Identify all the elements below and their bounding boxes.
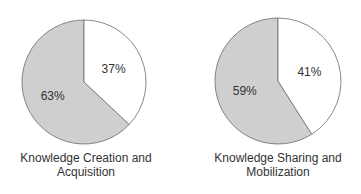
caption-line-2: Mobilization [193,165,361,179]
pie-chart-knowledge-sharing: 59%41% [215,18,341,144]
caption-knowledge-creation: Knowledge Creation and Acquisition [1,151,171,179]
pie-label-shaded: 59% [233,84,257,98]
caption-line-1: Knowledge Creation and [1,151,171,165]
pie-label-unshaded: 41% [297,65,321,79]
pie-label-shaded: 63% [41,89,65,103]
caption-line-1: Knowledge Sharing and [193,151,361,165]
pie-chart-knowledge-creation: 63%37% [22,20,146,144]
caption-knowledge-sharing: Knowledge Sharing and Mobilization [193,151,361,179]
caption-line-2: Acquisition [1,165,171,179]
pie-label-unshaded: 37% [102,62,126,76]
